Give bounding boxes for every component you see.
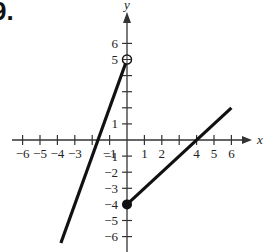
y-tick-label: −1	[104, 149, 118, 164]
y-tick-label: 5	[112, 52, 119, 67]
x-tick-label: 6	[228, 146, 235, 161]
y-tick-label: −6	[104, 229, 118, 244]
y-tick-label: −3	[104, 181, 118, 196]
closed-endpoint-icon	[122, 199, 132, 209]
y-tick-label: 1	[112, 116, 119, 131]
x-tick-label: 4	[193, 146, 200, 161]
x-tick-label: 1	[141, 146, 148, 161]
x-tick-label: −6	[16, 146, 30, 161]
x-axis-arrow-icon	[242, 136, 252, 144]
x-tick-label: −4	[50, 146, 64, 161]
piecewise-function-graph: xy−6−5−4−3−112456−6−5−4−3−2−1156	[0, 0, 271, 252]
x-axis-label: x	[256, 132, 263, 147]
y-tick-label: −4	[104, 197, 118, 212]
y-axis-arrow-icon	[123, 12, 131, 23]
x-tick-label: −5	[33, 146, 47, 161]
x-tick-label: −3	[68, 146, 82, 161]
y-tick-label: −2	[104, 165, 118, 180]
x-tick-label: 5	[211, 146, 218, 161]
x-tick-label: 2	[159, 146, 166, 161]
y-axis-label: y	[122, 0, 130, 12]
y-tick-label: −5	[104, 213, 118, 228]
y-tick-label: 6	[112, 36, 119, 51]
